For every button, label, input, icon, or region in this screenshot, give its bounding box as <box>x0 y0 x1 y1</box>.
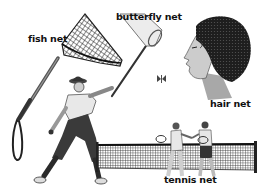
fish-net-label: fish net <box>28 34 67 44</box>
tennis-net-figure <box>96 122 257 177</box>
tennis-net-label: tennis net <box>164 175 216 185</box>
butterfly-net-label: butterfly net <box>116 12 182 22</box>
butterfly-icon <box>157 75 166 83</box>
illustration-scene <box>0 0 264 194</box>
hair-net-figure <box>184 16 251 100</box>
hair-net-label: hair net <box>210 99 251 109</box>
butterfly-net-figure <box>112 14 164 96</box>
